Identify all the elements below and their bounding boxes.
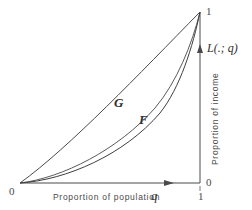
curve-f-label: F [139, 113, 148, 126]
x-axis-variable: q [151, 189, 158, 202]
x-axis-arrow-icon [164, 180, 174, 186]
y-axis-bottom-label: 0 [206, 177, 212, 188]
curve-f [20, 12, 200, 183]
curve-g-label: G [114, 96, 123, 109]
upper-envelope-curve [20, 12, 200, 183]
x-axis-title: Proportion of population [53, 193, 160, 202]
lorenz-value-arrow-icon [197, 44, 203, 53]
y-axis-title: Proportion of income [211, 73, 220, 165]
x-axis-end-label: 1 [198, 191, 204, 202]
x-axis-origin-label: 0 [9, 186, 15, 197]
lorenz-curve-figure: 0 1 1 0 L(.; q) Proportion of income Pro… [0, 0, 252, 210]
curve-g [20, 12, 200, 183]
lorenz-value-label: L(.; q) [207, 42, 238, 54]
y-axis-top-label: 1 [206, 6, 212, 17]
